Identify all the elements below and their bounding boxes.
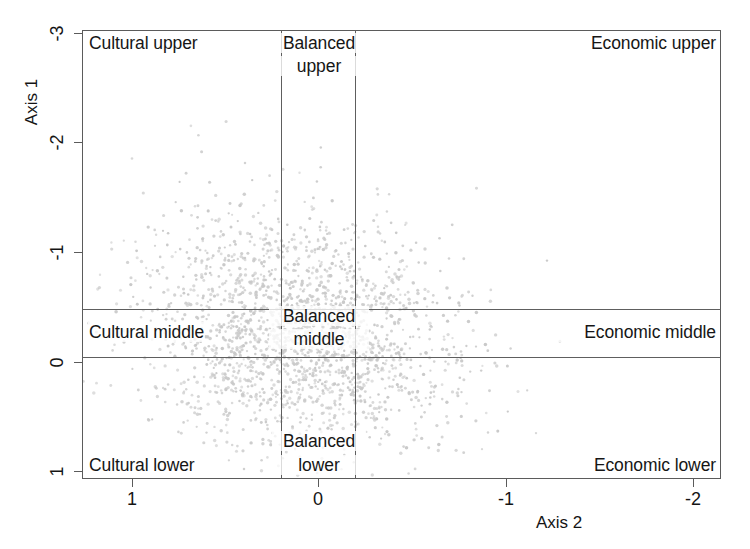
y-tick-mark-1 <box>74 471 82 472</box>
region-label-balanced-middle-line2: middle <box>269 329 369 349</box>
x-tick-label-1: 1 <box>112 489 152 510</box>
y-tick-mark-0 <box>74 362 82 363</box>
x-tick-mark-0 <box>318 479 319 487</box>
region-label-balanced-upper-line1: Balanced <box>276 33 362 53</box>
region-label-cultural-lower: Cultural lower <box>88 455 196 475</box>
y-tick-mark-minus1 <box>74 252 82 253</box>
region-label-balanced-middle-line1: Balanced <box>269 306 369 326</box>
plot-frame <box>82 30 721 479</box>
region-label-economic-lower: Economic lower <box>560 455 717 475</box>
vertical-reference-line-right <box>355 30 356 479</box>
y-axis-title: Axis 1 <box>22 67 42 137</box>
y-tick-mark-minus2 <box>74 142 82 143</box>
vertical-reference-line-left <box>281 30 282 479</box>
region-label-balanced-lower-line1: Balanced <box>272 431 366 451</box>
region-label-balanced-upper-line2: upper <box>276 56 362 76</box>
horizontal-reference-line-lower <box>82 357 721 358</box>
x-tick-mark-1 <box>132 479 133 487</box>
region-label-balanced-lower-line2: lower <box>272 455 366 475</box>
y-tick-label-1: 1 <box>47 459 68 485</box>
region-label-cultural-upper: Cultural upper <box>88 33 199 53</box>
region-label-economic-middle: Economic middle <box>552 322 717 342</box>
region-label-cultural-middle: Cultural middle <box>88 322 205 342</box>
region-label-economic-upper: Economic upper <box>565 33 717 53</box>
y-tick-label-minus1: -1 <box>47 240 68 266</box>
x-tick-mark-minus1 <box>506 479 507 487</box>
scatter-plot-figure: Cultural upper Balanced upper Economic u… <box>0 0 750 549</box>
y-tick-mark-minus3 <box>74 33 82 34</box>
horizontal-reference-line-upper <box>82 309 721 310</box>
y-tick-label-minus2: -2 <box>47 130 68 156</box>
x-tick-label-minus2: -2 <box>673 489 713 510</box>
y-tick-label-minus3: -3 <box>47 21 68 47</box>
x-axis-title: Axis 2 <box>536 513 582 533</box>
x-tick-label-0: 0 <box>298 489 338 510</box>
x-tick-mark-minus2 <box>693 479 694 487</box>
x-tick-label-minus1: -1 <box>486 489 526 510</box>
y-tick-label-0: 0 <box>47 350 68 376</box>
